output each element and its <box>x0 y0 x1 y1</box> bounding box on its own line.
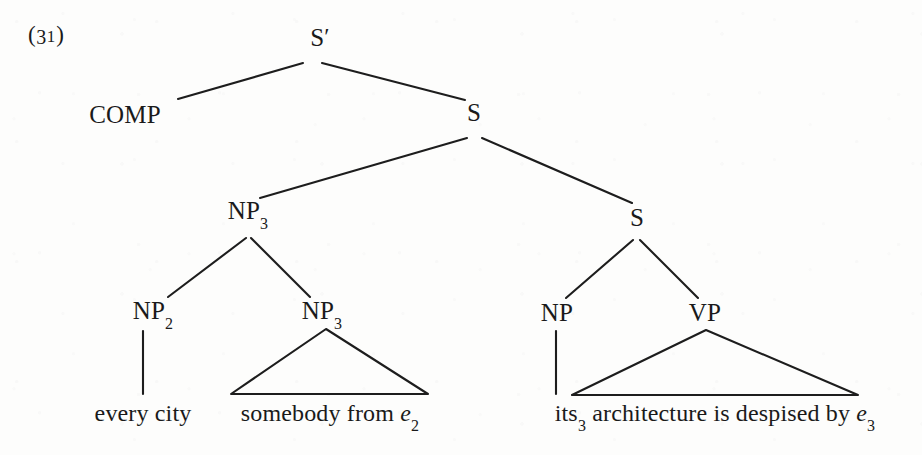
tree-edge-sbar-s1 <box>322 63 465 100</box>
tree-node-np3b: NP3 <box>302 297 343 329</box>
tree-edge-s1-np3a <box>260 138 467 198</box>
tree-node-np2: NP2 <box>133 297 174 329</box>
tree-edge-sbar-comp <box>178 63 303 99</box>
figure-page: (31) S′COMPSNP3SNP2NP3NPVP every citysom… <box>0 0 922 455</box>
leaf-its-arch: its3 architecture is despised by e3 <box>555 400 876 431</box>
tree-edge-np3a-np2 <box>168 238 246 297</box>
tree-triangle-group <box>231 329 858 395</box>
leaf-every-city: every city <box>95 400 192 427</box>
tree-edge-np3a-np3b <box>251 238 310 297</box>
tree-node-s2: S <box>630 204 644 232</box>
tree-edge-s2-vp <box>640 240 698 298</box>
tree-edge-group <box>143 63 698 394</box>
tree-node-np: NP <box>541 299 573 327</box>
tree-node-s1: S <box>467 99 481 127</box>
syntax-tree-lines <box>0 0 922 455</box>
tree-node-np3a: NP3 <box>228 197 269 229</box>
tree-edge-s2-np <box>566 240 633 298</box>
tree-edge-s1-s2 <box>482 138 632 203</box>
tree-node-sbar: S′ <box>310 24 330 52</box>
vp-triangle <box>572 330 858 395</box>
tree-node-comp: COMP <box>89 101 161 129</box>
tree-node-vp: VP <box>689 299 721 327</box>
leaf-somebody: somebody from e2 <box>241 400 419 431</box>
np3b-triangle <box>231 329 428 394</box>
